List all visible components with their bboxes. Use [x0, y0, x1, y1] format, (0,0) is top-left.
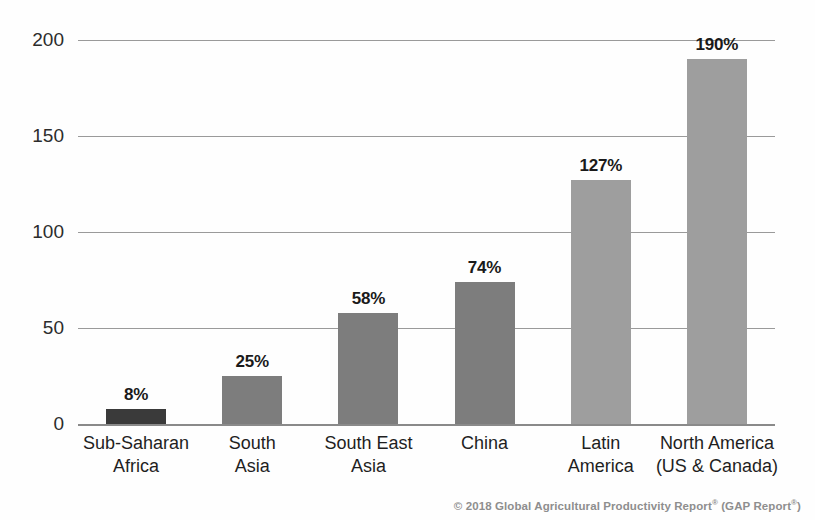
bar-0[interactable]: 8% [106, 409, 166, 424]
y-tick-label-100: 100 [0, 221, 64, 243]
y-tick-label-50: 50 [0, 317, 64, 339]
bar-value-label: 58% [352, 289, 385, 309]
bar-value-label: 25% [236, 352, 269, 372]
y-tick-label-200: 200 [0, 29, 64, 51]
gridline-100 [78, 232, 775, 233]
x-label-line: North America [647, 432, 787, 455]
bar-rect [687, 59, 747, 424]
x-label-line: Asia [298, 455, 438, 478]
x-label-5: North America(US & Canada) [647, 432, 787, 478]
bar-rect [571, 180, 631, 424]
copyright-footer: © 2018 Global Agricultural Productivity … [454, 498, 801, 512]
bar-rect [106, 409, 166, 424]
bar-3[interactable]: 74% [455, 282, 515, 424]
gridline-50 [78, 328, 775, 329]
bar-5[interactable]: 190% [687, 59, 747, 424]
x-axis-labels: Sub-SaharanAfricaSouthAsiaSouth EastAsia… [78, 432, 775, 492]
footer-middle-text: (GAP Report [718, 500, 791, 512]
plot-area: 8%25%58%74%127%190% [78, 40, 775, 424]
gridline-0 [78, 424, 775, 426]
bar-value-label: 127% [579, 156, 622, 176]
bar-value-label: 74% [468, 258, 501, 278]
bar-rect [455, 282, 515, 424]
bar-rect [338, 313, 398, 424]
y-tick-label-150: 150 [0, 125, 64, 147]
footer-copyright-text: © 2018 Global Agricultural Productivity … [454, 500, 712, 512]
bar-1[interactable]: 25% [222, 376, 282, 424]
chart-page: 8%25%58%74%127%190% Sub-SaharanAfricaSou… [0, 0, 815, 520]
gridline-150 [78, 136, 775, 137]
footer-close-paren: ) [797, 500, 801, 512]
bar-value-label: 190% [696, 35, 739, 55]
gridline-200 [78, 40, 775, 41]
x-label-line: (US & Canada) [647, 455, 787, 478]
bar-4[interactable]: 127% [571, 180, 631, 424]
bar-rect [222, 376, 282, 424]
bar-value-label: 8% [124, 385, 148, 405]
y-tick-label-0: 0 [0, 413, 64, 435]
bar-2[interactable]: 58% [338, 313, 398, 424]
